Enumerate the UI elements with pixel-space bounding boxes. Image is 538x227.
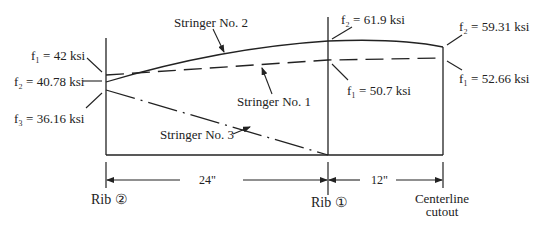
dim-12-label: 12"	[371, 173, 388, 187]
leader-f1-rib2	[87, 58, 102, 72]
leader-f2-cl	[447, 35, 462, 45]
stringer2-arrow	[213, 29, 224, 52]
stringer3-label: Stringer No. 3	[160, 127, 234, 142]
rib1-label: Rib ①	[311, 195, 348, 210]
stringer2-curve	[106, 40, 443, 82]
stringer2-label: Stringer No. 2	[174, 15, 248, 30]
f3-rib2-label: f₃ = 36.16 ksi	[14, 111, 85, 126]
f2-cl-label: f₂ = 59.31 ksi	[459, 19, 530, 34]
leader-f3-rib2	[86, 93, 102, 108]
leader-f1-rib1	[332, 64, 348, 80]
f2-rib2-label: f₂ = 40.78 ksi	[14, 74, 85, 89]
stringer1-label: Stringer No. 1	[237, 94, 311, 109]
f1-rib1-label: f₁ = 50.7 ksi	[347, 83, 411, 98]
dim-24-label: 24"	[199, 173, 216, 187]
leader-f1-cl	[447, 61, 462, 70]
rib2-label: Rib ②	[91, 192, 128, 207]
stringer-stress-diagram: Stringer No. 2 Stringer No. 1 Stringer N…	[0, 0, 538, 227]
f2-rib1-label: f₂ = 61.9 ksi	[341, 12, 405, 27]
stringer1-curve	[106, 58, 443, 75]
f1-rib2-label: f₁ = 42 ksi	[31, 48, 86, 63]
centerline-label-line2: cutout	[426, 204, 459, 219]
leader-f2-rib1	[332, 27, 352, 39]
f1-cl-label: f₁ = 52.66 ksi	[459, 71, 530, 86]
diagram-svg: Stringer No. 2 Stringer No. 1 Stringer N…	[0, 0, 538, 227]
stringer1-arrow	[262, 68, 272, 94]
